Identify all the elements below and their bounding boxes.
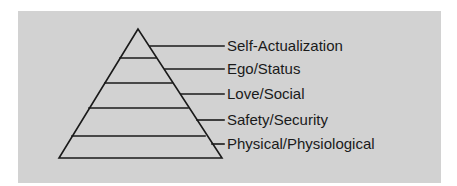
level-label-love-social: Love/Social [227,86,305,102]
level-label-physical-physiological: Physical/Physiological [227,136,375,152]
level-label-self-actualization: Self-Actualization [227,38,343,54]
level-label-ego-status: Ego/Status [227,61,300,77]
level-label-safety-security: Safety/Security [227,112,328,128]
